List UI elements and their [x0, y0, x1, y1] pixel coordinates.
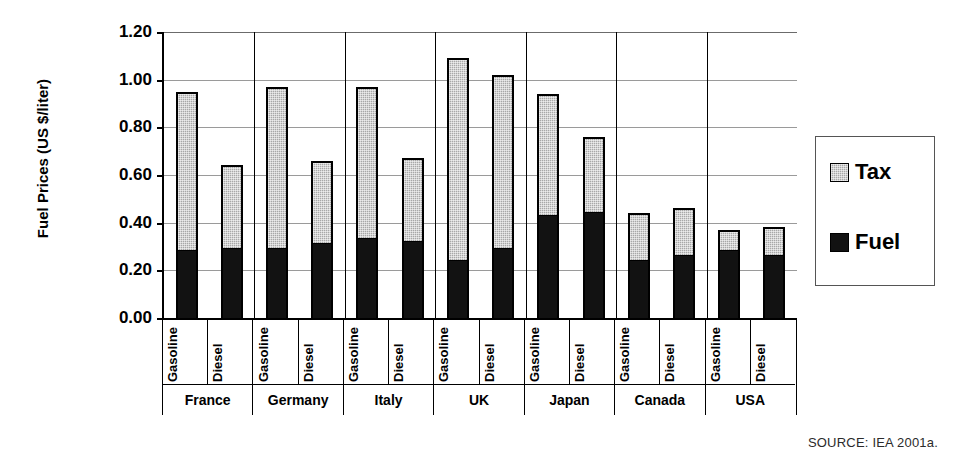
- legend-swatch-fuel: [830, 233, 849, 252]
- bar-segment-tax: [223, 167, 241, 250]
- bar-segment-tax: [494, 77, 512, 251]
- y-tick-mark: [157, 127, 164, 129]
- y-axis-title: Fuel Prices (US $/liter): [34, 39, 51, 279]
- stacked-bar: [311, 161, 333, 318]
- legend-item-fuel: Fuel: [830, 231, 900, 253]
- bar-slot: [254, 32, 299, 318]
- x-axis-subcategory-cell: Diesel: [750, 320, 795, 384]
- stacked-bar: [447, 58, 469, 318]
- y-tick-mark: [157, 32, 164, 34]
- bar-slot: [571, 32, 616, 318]
- stacked-bar: [221, 165, 243, 318]
- x-axis-subcategory-label: Diesel: [302, 344, 315, 382]
- x-axis-subcategory-label: Gasoline: [437, 327, 450, 382]
- x-axis-right-edge: [796, 320, 797, 415]
- bar-segment-fuel: [313, 243, 331, 318]
- x-axis-subcategory-cell: Gasoline: [252, 320, 297, 384]
- legend-swatch-tax: [830, 163, 849, 182]
- bar-segment-fuel: [223, 248, 241, 318]
- stacked-bar: [492, 75, 514, 318]
- x-axis-subcategory-label: Gasoline: [618, 327, 631, 382]
- bar-segment-fuel: [539, 215, 557, 318]
- x-axis-group-label: France: [162, 384, 252, 415]
- x-axis-subcategory-label: Gasoline: [166, 327, 179, 382]
- y-tick-mark: [157, 80, 164, 82]
- group-separator: [616, 32, 617, 318]
- x-axis-subcategory-cell: Diesel: [298, 320, 343, 384]
- bar-segment-fuel: [358, 238, 376, 318]
- stacked-bar: [537, 94, 559, 318]
- y-tick-mark: [157, 175, 164, 177]
- x-axis-subcategory-label: Gasoline: [528, 327, 541, 382]
- x-axis-subcategory-cell: Gasoline: [614, 320, 659, 384]
- y-tick-label: 0.40: [88, 213, 152, 233]
- chart-legend: Tax Fuel: [815, 136, 935, 286]
- x-axis-subcategory-cell: Diesel: [207, 320, 252, 384]
- y-tick-label: 0.60: [88, 165, 152, 185]
- x-axis-subcategory-label: Gasoline: [709, 327, 722, 382]
- group-separator: [254, 32, 255, 318]
- x-axis-group-label: UK: [433, 384, 523, 415]
- x-axis-subcategory-label: Diesel: [392, 344, 405, 382]
- x-axis-subcategory-label: Diesel: [573, 344, 586, 382]
- bar-slot: [707, 32, 752, 318]
- bar-slot: [435, 32, 480, 318]
- bar-segment-fuel: [268, 248, 286, 318]
- x-axis-subcategory-cell: Gasoline: [343, 320, 388, 384]
- bar-slot: [345, 32, 390, 318]
- x-axis-subcategory-cell: Diesel: [479, 320, 524, 384]
- x-axis-subcategory-label: Gasoline: [347, 327, 360, 382]
- y-tick-mark: [157, 223, 164, 225]
- bar-segment-tax: [178, 94, 196, 254]
- bar-segment-fuel: [675, 255, 693, 318]
- x-axis-subcategory-label: Diesel: [663, 344, 676, 382]
- y-tick-mark: [157, 270, 164, 272]
- legend-label-tax: Tax: [855, 161, 891, 183]
- stacked-bar: [583, 137, 605, 318]
- bar-segment-tax: [630, 215, 648, 263]
- bar-slot: [616, 32, 661, 318]
- bar-series-group: [164, 32, 797, 318]
- stacked-bar: [763, 227, 785, 318]
- x-axis-subcategory-label: Diesel: [754, 344, 767, 382]
- bar-segment-tax: [449, 60, 467, 263]
- stacked-bar: [628, 213, 650, 318]
- x-axis-subcategory-cell: Diesel: [659, 320, 704, 384]
- x-axis-subcategory-label: Diesel: [211, 344, 224, 382]
- bar-segment-tax: [313, 163, 331, 246]
- plot-area: [162, 32, 797, 320]
- bar-segment-tax: [585, 139, 603, 215]
- source-note: SOURCE: IEA 2001a.: [808, 435, 938, 450]
- stacked-bar: [718, 230, 740, 318]
- x-axis-group-label: Canada: [614, 384, 704, 415]
- bar-slot: [661, 32, 706, 318]
- x-axis-subcategory-cell: Gasoline: [705, 320, 750, 384]
- x-axis-group-label: Germany: [252, 384, 342, 415]
- x-axis-subcategory-cell: Gasoline: [433, 320, 478, 384]
- bar-segment-tax: [358, 89, 376, 242]
- x-axis-subcategory-cell: Gasoline: [524, 320, 569, 384]
- bar-slot: [526, 32, 571, 318]
- bar-segment-tax: [675, 210, 693, 258]
- bar-segment-fuel: [585, 212, 603, 318]
- group-separator: [707, 32, 708, 318]
- stacked-bar: [266, 87, 288, 318]
- group-separator: [345, 32, 346, 318]
- bar-segment-fuel: [765, 255, 783, 318]
- bar-segment-tax: [765, 229, 783, 258]
- x-axis-subcategory-cell: Diesel: [388, 320, 433, 384]
- bar-segment-fuel: [449, 260, 467, 318]
- stacked-bar: [673, 208, 695, 318]
- bar-slot: [390, 32, 435, 318]
- y-tick-label: 1.20: [88, 22, 152, 42]
- fuel-prices-chart-figure: Fuel Prices (US $/liter) 0.000.200.400.6…: [0, 0, 954, 464]
- bar-segment-fuel: [404, 241, 422, 318]
- x-axis-group-label: USA: [705, 384, 795, 415]
- bar-segment-fuel: [720, 250, 738, 318]
- bar-segment-fuel: [630, 260, 648, 318]
- y-tick-label: 0.00: [88, 308, 152, 328]
- bar-slot: [164, 32, 209, 318]
- y-tick-label: 0.20: [88, 260, 152, 280]
- stacked-bar: [176, 92, 198, 318]
- bar-segment-tax: [539, 96, 557, 218]
